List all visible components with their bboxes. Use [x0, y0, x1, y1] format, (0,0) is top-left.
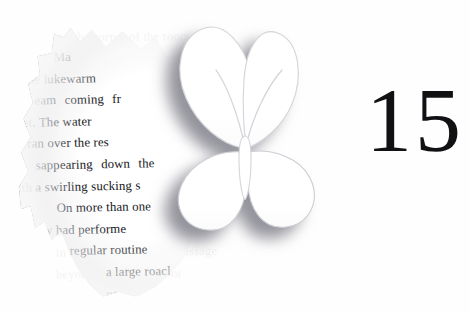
- butterfly-silhouette: [150, 18, 340, 250]
- wing-lower-left: [178, 152, 246, 230]
- wing-upper-right: [243, 32, 298, 148]
- butterfly-shape: [178, 27, 314, 230]
- wing-lower-right: [247, 151, 314, 227]
- chapter-number: 15: [366, 74, 464, 166]
- book-page-scan: ing the corner of the room and watched a…: [0, 0, 470, 312]
- wing-upper-left: [180, 27, 254, 148]
